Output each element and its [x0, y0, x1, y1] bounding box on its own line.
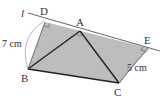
trapezoid-fill	[28, 22, 148, 83]
label-B: B	[21, 72, 28, 84]
measure-label-CE: 5 cm	[127, 62, 147, 73]
measure-label-BD: 7 cm	[2, 38, 22, 49]
label-C: C	[114, 86, 121, 98]
geometry-figure: l D A E B C 7 cm 5 cm	[0, 0, 162, 102]
diagram-canvas: l D A E B C 7 cm 5 cm	[0, 0, 162, 102]
label-l: l	[21, 7, 24, 19]
label-E: E	[144, 34, 151, 46]
label-A: A	[76, 16, 84, 28]
label-D: D	[40, 5, 48, 17]
